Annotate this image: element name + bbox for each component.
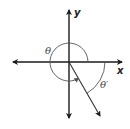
reference-angle-diagram: y x θ θ′ — [0, 0, 130, 129]
y-axis-label: y — [74, 7, 81, 18]
reference-angle-label: θ′ — [100, 79, 109, 90]
terminal-ray — [69, 62, 100, 116]
diagram-canvas: y x θ θ′ — [0, 0, 130, 129]
x-axis-label: x — [116, 65, 124, 76]
theta-label: θ — [45, 45, 51, 56]
